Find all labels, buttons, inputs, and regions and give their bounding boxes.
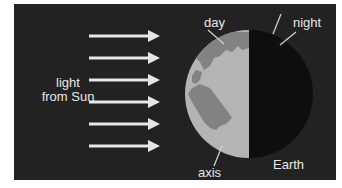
arrow-icon <box>89 96 160 108</box>
arrow-icon <box>89 140 160 152</box>
earth-night-side <box>249 30 313 158</box>
axis-top-pointer <box>273 14 281 34</box>
arrow-icon <box>89 74 160 86</box>
earth-label: Earth <box>273 158 304 172</box>
arrow-icon <box>89 118 160 130</box>
light-label-line1: light <box>38 76 98 90</box>
night-label: night <box>293 16 321 30</box>
arrow-icon <box>89 30 160 42</box>
night-pointer <box>280 32 296 45</box>
light-from-sun-label: light from Sun <box>38 76 98 104</box>
arrow-icon <box>89 52 160 64</box>
earth-globe <box>185 30 313 158</box>
sunlight-arrows <box>89 30 160 152</box>
day-label: day <box>204 16 225 30</box>
light-label-line2: from Sun <box>38 90 98 104</box>
axis-label: axis <box>198 166 221 180</box>
